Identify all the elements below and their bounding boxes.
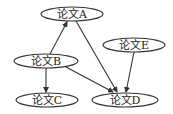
- node-e: 论文E: [103, 38, 165, 52]
- edge-e-to-d: [126, 52, 134, 92]
- node-c: 论文C: [16, 93, 78, 107]
- edge-a-to-d: [76, 21, 117, 92]
- node-d-label: 论文D: [110, 93, 141, 107]
- node-d: 论文D: [92, 93, 158, 107]
- node-a: 论文A: [41, 7, 103, 21]
- node-b: 论文B: [14, 54, 78, 68]
- node-c-label: 论文C: [32, 93, 62, 107]
- node-b-label: 论文B: [31, 54, 61, 68]
- edge-b-to-a: [50, 22, 67, 54]
- edge-b-to-d: [66, 67, 113, 92]
- node-e-label: 论文E: [119, 38, 149, 52]
- citation-graph: 论文A 论文B 论文C 论文D 论文E: [0, 0, 173, 114]
- node-a-label: 论文A: [57, 7, 88, 21]
